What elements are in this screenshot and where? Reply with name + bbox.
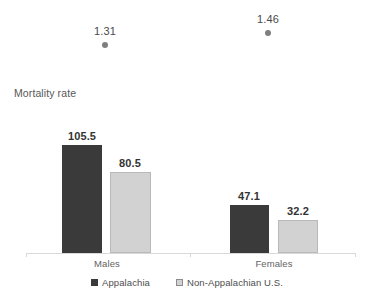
chart-legend: Appalachia Non-Appalachian U.S. bbox=[0, 277, 374, 288]
x-axis-tick bbox=[26, 253, 27, 257]
bar-males-appalachia[interactable] bbox=[62, 145, 102, 253]
bar-males-non-appalachian[interactable] bbox=[110, 172, 151, 253]
legend-swatch-outlined-square-icon bbox=[176, 279, 183, 286]
bar-value-label: 105.5 bbox=[52, 130, 112, 142]
bar-females-non-appalachian[interactable] bbox=[278, 220, 318, 253]
legend-item-appalachia[interactable]: Appalachia bbox=[91, 277, 150, 288]
bar-value-label: 32.2 bbox=[268, 205, 328, 217]
x-axis-category-label-females: Females bbox=[219, 258, 329, 269]
mortality-rate-bar-chart: 1.31 1.46 Mortality rate 105.5 80.5 47.1… bbox=[0, 0, 374, 306]
x-axis-tick bbox=[190, 253, 191, 257]
legend-label: Non-Appalachian U.S. bbox=[187, 277, 283, 288]
x-axis-tick bbox=[355, 253, 356, 257]
legend-swatch-filled-square-icon bbox=[91, 279, 98, 286]
legend-item-non-appalachian-us[interactable]: Non-Appalachian U.S. bbox=[176, 277, 283, 288]
bar-females-appalachia[interactable] bbox=[230, 205, 269, 253]
bar-value-label: 80.5 bbox=[100, 157, 160, 169]
bar-value-label: 47.1 bbox=[219, 190, 279, 202]
x-axis-category-label-males: Males bbox=[52, 258, 162, 269]
legend-label: Appalachia bbox=[102, 277, 150, 288]
